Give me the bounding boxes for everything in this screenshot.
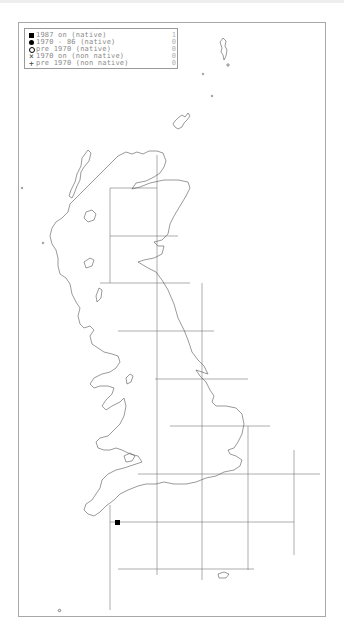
coastline bbox=[21, 38, 244, 612]
legend-item-pre-1970-non-native: + pre 1970 (non native) 0 bbox=[28, 60, 177, 67]
legend-label: pre 1970 (non native) bbox=[36, 60, 156, 67]
record-1987-on-native-square[interactable] bbox=[115, 520, 120, 525]
grid-lines bbox=[100, 155, 320, 610]
filled-circle-icon bbox=[28, 39, 35, 46]
plus-icon: + bbox=[28, 60, 35, 67]
records bbox=[115, 520, 120, 525]
filled-square-icon bbox=[28, 32, 35, 39]
legend: 1987 on (native) 1 1970 - 86 (native) 0 … bbox=[24, 28, 178, 69]
legend-count: 0 bbox=[156, 60, 176, 67]
distribution-map bbox=[0, 0, 344, 632]
